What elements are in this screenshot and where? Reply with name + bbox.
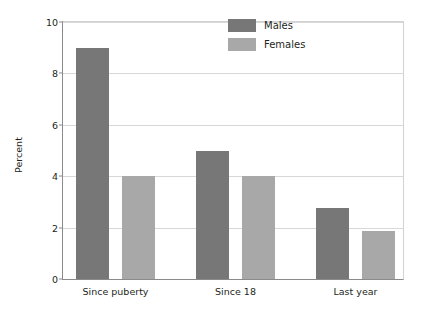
bar-females-2 bbox=[362, 231, 395, 279]
bar-chart: Percent 0246810Since pubertySince 18Last… bbox=[0, 0, 425, 309]
males-swatch-icon bbox=[228, 19, 256, 32]
bar-females-1 bbox=[242, 176, 275, 279]
gridline-y-2 bbox=[63, 228, 403, 229]
gridline-y-4 bbox=[63, 176, 403, 177]
gridline-y-8 bbox=[63, 73, 403, 74]
y-tick-label-6: 6 bbox=[52, 119, 58, 130]
y-tick-mark-2 bbox=[59, 227, 63, 228]
gridline-y-6 bbox=[63, 125, 403, 126]
females-swatch-icon bbox=[228, 38, 256, 51]
y-tick-label-10: 10 bbox=[46, 17, 58, 28]
x-tick-label-0: Since puberty bbox=[83, 286, 149, 297]
gridline-y-0 bbox=[63, 279, 403, 280]
legend-label-females: Females bbox=[264, 39, 305, 50]
bar-males-1 bbox=[196, 151, 229, 280]
chart-legend: Males Females bbox=[228, 16, 305, 54]
y-tick-mark-0 bbox=[59, 279, 63, 280]
y-tick-mark-6 bbox=[59, 124, 63, 125]
bar-males-2 bbox=[316, 208, 349, 279]
y-tick-label-4: 4 bbox=[52, 171, 58, 182]
y-tick-mark-4 bbox=[59, 176, 63, 177]
x-tick-label-2: Last year bbox=[333, 286, 377, 297]
bar-females-0 bbox=[122, 176, 155, 279]
x-tick-label-1: Since 18 bbox=[215, 286, 256, 297]
y-tick-mark-10 bbox=[59, 22, 63, 23]
legend-item-females[interactable]: Females bbox=[228, 35, 305, 54]
bar-males-0 bbox=[76, 48, 109, 279]
y-tick-label-2: 2 bbox=[52, 222, 58, 233]
y-tick-label-0: 0 bbox=[52, 274, 58, 285]
y-tick-label-8: 8 bbox=[52, 68, 58, 79]
legend-label-males: Males bbox=[264, 20, 293, 31]
plot-area: 0246810Since pubertySince 18Last year bbox=[62, 21, 404, 280]
y-axis-title: Percent bbox=[13, 137, 24, 173]
legend-item-males[interactable]: Males bbox=[228, 16, 305, 35]
y-tick-mark-8 bbox=[59, 73, 63, 74]
